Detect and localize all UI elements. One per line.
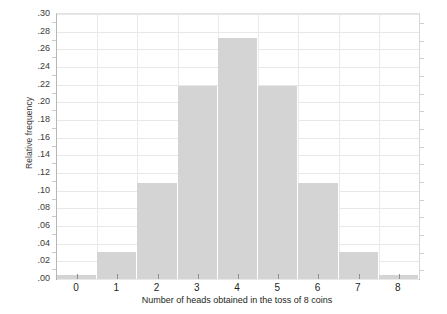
histogram-bar — [137, 183, 177, 279]
histogram-bar — [218, 38, 258, 279]
histogram-bar — [178, 86, 218, 279]
horizontal-gridline — [57, 14, 419, 15]
y-axis-minor-tick — [52, 40, 56, 41]
x-axis-tick-label: 6 — [302, 282, 332, 293]
histogram-bar — [298, 183, 338, 279]
y-axis-tick-label: .20 — [22, 96, 50, 106]
y-axis-minor-tick — [52, 269, 56, 270]
y-axis-minor-tick — [52, 216, 56, 217]
y-axis-tick-label: .00 — [22, 273, 50, 283]
y-axis-minor-tick — [52, 57, 56, 58]
y-axis-minor-tick — [52, 146, 56, 147]
x-axis-tick-label: 0 — [61, 282, 91, 293]
right-axis-minor-tick — [419, 129, 424, 130]
y-axis-tick-label: .04 — [22, 238, 50, 248]
x-axis-tick-label: 4 — [222, 282, 252, 293]
y-axis-tick-label: .06 — [22, 220, 50, 230]
y-axis-minor-tick — [52, 252, 56, 253]
x-axis-tick-label: 7 — [343, 282, 373, 293]
x-axis-tick-mark — [158, 274, 159, 279]
right-axis-minor-tick — [419, 147, 424, 148]
x-axis-label: Number of heads obtained in the toss of … — [56, 295, 418, 305]
x-axis-tick-mark — [359, 274, 360, 279]
y-axis-tick-label: .14 — [22, 149, 50, 159]
right-axis-minor-tick — [419, 41, 424, 42]
y-axis-tick-label: .26 — [22, 43, 50, 53]
vertical-gridline — [339, 14, 340, 279]
y-axis-tick-labels: .00.02.04.06.08.10.12.14.16.18.20.22.24.… — [22, 13, 50, 278]
y-axis-minor-tick — [52, 93, 56, 94]
x-axis-tick-mark — [278, 274, 279, 279]
y-axis-minor-tick — [52, 199, 56, 200]
y-axis-tick-label: .22 — [22, 79, 50, 89]
x-axis-tick-mark — [399, 274, 400, 279]
horizontal-gridline — [57, 32, 419, 33]
x-axis-tick-mark — [238, 274, 239, 279]
y-axis-tick-label: .02 — [22, 255, 50, 265]
x-axis-tick-mark — [198, 274, 199, 279]
horizontal-gridline — [57, 279, 419, 280]
y-axis-minor-tick — [52, 22, 56, 23]
y-axis-minor-tick — [52, 128, 56, 129]
x-axis-tick-mark — [318, 274, 319, 279]
right-axis-minor-tick — [419, 217, 424, 218]
right-axis-minor-tick — [419, 23, 424, 24]
right-axis-minor-tick — [419, 111, 424, 112]
histogram-figure: Relative frequency .00.02.04.06.08.10.12… — [0, 0, 447, 314]
x-axis-tick-label: 5 — [262, 282, 292, 293]
y-axis-minor-tick — [52, 163, 56, 164]
right-axis-minor-tick — [419, 270, 424, 271]
y-axis-tick-label: .08 — [22, 202, 50, 212]
histogram-bar — [258, 86, 298, 279]
y-axis-tick-label: .16 — [22, 132, 50, 142]
y-axis-minor-tick — [52, 110, 56, 111]
right-axis-minor-tick — [419, 164, 424, 165]
right-axis-minor-tick — [419, 76, 424, 77]
x-axis-tick-label: 2 — [142, 282, 172, 293]
y-axis-tick-label: .28 — [22, 26, 50, 36]
x-axis-tick-label: 3 — [182, 282, 212, 293]
right-axis-minor-tick — [419, 182, 424, 183]
right-axis-minor-tick — [419, 94, 424, 95]
x-axis-tick-label: 1 — [101, 282, 131, 293]
plot-area — [56, 13, 420, 280]
right-axis-minor-tick — [419, 200, 424, 201]
y-axis-tick-label: .10 — [22, 185, 50, 195]
vertical-gridline — [379, 14, 380, 279]
y-axis-minor-tick — [52, 75, 56, 76]
y-axis-tick-label: .24 — [22, 61, 50, 71]
y-axis-tick-label: .18 — [22, 114, 50, 124]
right-axis-minor-tick — [419, 235, 424, 236]
x-axis-tick-label: 8 — [383, 282, 413, 293]
y-axis-tick-label: .30 — [22, 8, 50, 18]
y-axis-tick-label: .12 — [22, 167, 50, 177]
y-axis-minor-tick — [52, 181, 56, 182]
y-axis-minor-tick — [52, 234, 56, 235]
x-axis-tick-mark — [77, 274, 78, 279]
right-axis-minor-tick — [419, 58, 424, 59]
right-axis-minor-tick — [419, 253, 424, 254]
vertical-gridline — [97, 14, 98, 279]
x-axis-tick-mark — [117, 274, 118, 279]
